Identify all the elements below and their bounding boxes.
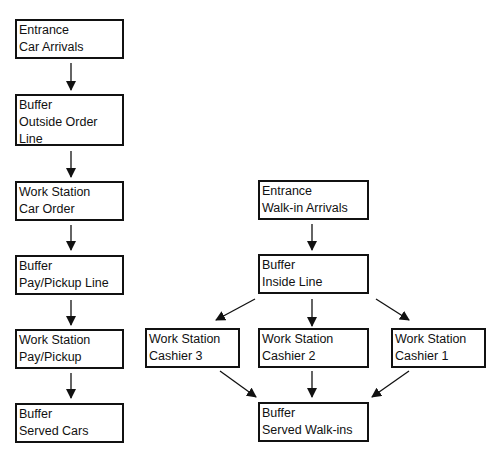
node-buffer-outside-order-line: Buffer Outside Order Line bbox=[15, 94, 124, 146]
flow-arrows bbox=[0, 0, 499, 458]
node-buffer-served-cars: Buffer Served Cars bbox=[15, 403, 124, 443]
node-label: Served Cars bbox=[19, 423, 120, 440]
node-label: Car Order bbox=[19, 201, 120, 218]
node-label: Walk-in Arrivals bbox=[262, 200, 365, 217]
node-entrance-car-arrivals: Entrance Car Arrivals bbox=[15, 19, 124, 59]
node-buffer-inside-line: Buffer Inside Line bbox=[258, 254, 369, 294]
node-label: Buffer bbox=[19, 406, 120, 423]
node-label: Work Station bbox=[395, 331, 482, 348]
node-label: Buffer bbox=[262, 257, 365, 274]
node-workstation-car-order: Work Station Car Order bbox=[15, 181, 124, 221]
node-label: Work Station bbox=[262, 331, 365, 348]
node-label: Entrance bbox=[19, 22, 120, 39]
node-label: Work Station bbox=[149, 331, 236, 348]
node-workstation-cashier-2: Work Station Cashier 2 bbox=[258, 328, 369, 368]
node-label: Car Arrivals bbox=[19, 39, 120, 56]
node-label: Cashier 3 bbox=[149, 348, 236, 365]
node-entrance-walkin-arrivals: Entrance Walk-in Arrivals bbox=[258, 180, 369, 220]
node-workstation-cashier-3: Work Station Cashier 3 bbox=[145, 328, 240, 368]
node-label: Served Walk-ins bbox=[262, 422, 365, 439]
node-label: Outside Order bbox=[19, 114, 120, 131]
node-label: Buffer bbox=[19, 97, 120, 114]
node-label: Pay/Pickup bbox=[19, 349, 120, 366]
node-workstation-cashier-1: Work Station Cashier 1 bbox=[391, 328, 486, 368]
node-buffer-pay-pickup-line: Buffer Pay/Pickup Line bbox=[15, 255, 124, 295]
node-workstation-pay-pickup: Work Station Pay/Pickup bbox=[15, 329, 124, 369]
node-label: Inside Line bbox=[262, 274, 365, 291]
node-label: Cashier 1 bbox=[395, 348, 482, 365]
node-label: Entrance bbox=[262, 183, 365, 200]
node-label: Cashier 2 bbox=[262, 348, 365, 365]
node-label: Pay/Pickup Line bbox=[19, 275, 120, 292]
node-label: Work Station bbox=[19, 184, 120, 201]
node-label: Work Station bbox=[19, 332, 120, 349]
node-label: Buffer bbox=[19, 258, 120, 275]
node-buffer-served-walkins: Buffer Served Walk-ins bbox=[258, 402, 369, 442]
node-label: Line bbox=[19, 131, 120, 148]
node-label: Buffer bbox=[262, 405, 365, 422]
